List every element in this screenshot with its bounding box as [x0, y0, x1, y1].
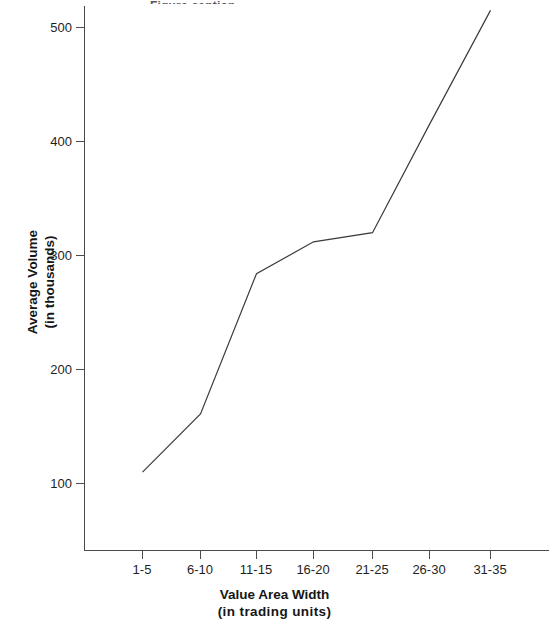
x-tick-marks — [143, 551, 491, 559]
x-tick-label: 6-10 — [169, 562, 231, 578]
x-axis-title: Value Area Width (in trading units) — [0, 586, 549, 620]
x-tick-26-30: 26-30 — [398, 562, 460, 578]
y-tick-marks — [76, 28, 84, 484]
x-tick-label: 26-30 — [398, 562, 460, 578]
y-axis-title-line2: (in thousands) — [41, 182, 58, 382]
data-series-line — [143, 10, 491, 472]
x-axis-title-line1: Value Area Width — [0, 586, 549, 603]
line-chart: Figure caption 500 400 — [0, 0, 549, 620]
x-tick-6-10: 6-10 — [169, 562, 231, 578]
plot-area — [0, 0, 549, 620]
y-axis-title: Average Volume (in thousands) — [24, 182, 58, 382]
x-tick-31-35: 31-35 — [459, 562, 521, 578]
y-axis-title-line1: Average Volume — [24, 182, 41, 382]
y-tick-100: 100 — [24, 477, 72, 490]
x-tick-label: 11-15 — [225, 562, 287, 578]
x-tick-21-25: 21-25 — [341, 562, 403, 578]
y-tick-label: 100 — [24, 477, 72, 490]
x-tick-1-5: 1-5 — [111, 562, 173, 578]
y-tick-400: 400 — [24, 135, 72, 148]
x-tick-11-15: 11-15 — [225, 562, 287, 578]
x-tick-16-20: 16-20 — [282, 562, 344, 578]
x-tick-label: 1-5 — [111, 562, 173, 578]
y-tick-label: 500 — [24, 21, 72, 34]
x-tick-label: 21-25 — [341, 562, 403, 578]
y-tick-500: 500 — [24, 21, 72, 34]
x-tick-label: 31-35 — [459, 562, 521, 578]
y-tick-label: 400 — [24, 135, 72, 148]
x-axis-title-line2: (in trading units) — [0, 603, 549, 620]
x-tick-label: 16-20 — [282, 562, 344, 578]
